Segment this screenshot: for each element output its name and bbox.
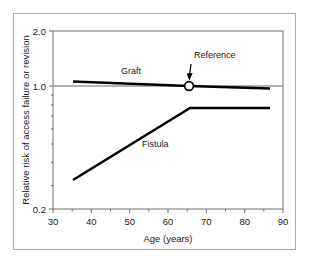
x-tick-label-30: 30 — [48, 216, 59, 227]
graft-series-label: Graft — [121, 66, 142, 76]
relative-risk-line-chart: 2.0 1.0 0.2 30 40 50 60 70 80 90 — [0, 0, 310, 263]
reference-annotation-label: Reference — [194, 50, 236, 60]
x-axis-major-ticks — [53, 209, 283, 213]
x-axis-title: Age (years) — [143, 233, 192, 244]
x-tick-label-50: 50 — [124, 216, 135, 227]
y-tick-label-2: 2.0 — [33, 26, 46, 37]
y-axis-title: Relative risk of access failure or revis… — [20, 35, 31, 204]
fistula-series-label: Fistula — [142, 139, 169, 149]
y-axis-major-ticks — [49, 31, 53, 209]
x-tick-label-90: 90 — [278, 216, 289, 227]
x-tick-label-80: 80 — [239, 216, 250, 227]
y-tick-label-1: 1.0 — [33, 81, 46, 92]
reference-point-marker — [185, 82, 194, 91]
y-tick-label-0: 0.2 — [33, 204, 46, 215]
x-tick-label-40: 40 — [86, 216, 97, 227]
x-tick-label-60: 60 — [163, 216, 174, 227]
figure-container: 2.0 1.0 0.2 30 40 50 60 70 80 90 — [0, 0, 310, 263]
plot-area-frame — [53, 31, 283, 209]
x-tick-label-70: 70 — [201, 216, 212, 227]
